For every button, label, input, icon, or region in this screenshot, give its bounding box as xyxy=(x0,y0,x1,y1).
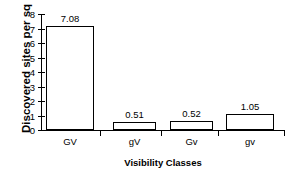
bar xyxy=(226,114,274,130)
y-axis-tick-label: 0 xyxy=(30,125,35,136)
bar-value-label: 0.52 xyxy=(182,108,201,119)
y-axis-tick xyxy=(38,101,45,102)
bar xyxy=(46,26,94,130)
bar-value-label: 1.05 xyxy=(241,101,260,112)
y-axis-tick xyxy=(38,14,45,15)
x-axis-tick xyxy=(218,130,219,136)
x-axis-category-label: GV xyxy=(63,136,77,147)
x-axis-category-label: Gv xyxy=(185,136,197,147)
y-axis-tick-label: 4 xyxy=(30,67,35,78)
x-axis-line xyxy=(41,130,285,131)
y-axis-tick xyxy=(38,72,45,73)
y-axis-tick-label: 5 xyxy=(30,52,35,63)
bar-value-label: 7.08 xyxy=(61,13,80,24)
x-axis-title: Visibility Classes xyxy=(41,157,285,168)
y-axis-tick-label: 8 xyxy=(30,9,35,20)
plot-area: 012345678 7.080.510.521.05 xyxy=(41,14,285,131)
y-axis-tick xyxy=(38,116,45,117)
y-axis-tick xyxy=(38,29,45,30)
y-axis-tick-label: 2 xyxy=(30,96,35,107)
y-axis-tick xyxy=(38,43,45,44)
bar-chart-figure: Discovered sites per sq km 012345678 7.0… xyxy=(0,0,291,181)
bar xyxy=(170,121,213,130)
y-axis-tick-label: 3 xyxy=(30,81,35,92)
y-axis-tick xyxy=(38,58,45,59)
x-axis-category-label: gV xyxy=(129,136,141,147)
y-axis-tick xyxy=(38,87,45,88)
bar-value-label: 0.51 xyxy=(125,109,144,120)
y-axis-tick-label: 6 xyxy=(30,38,35,49)
x-axis-tick xyxy=(284,130,285,136)
x-axis-tick xyxy=(161,130,162,136)
bar xyxy=(113,122,156,130)
y-axis-tick xyxy=(38,130,45,131)
x-axis-tick xyxy=(100,130,101,136)
y-axis-tick-label: 1 xyxy=(30,110,35,121)
y-axis-tick-label: 7 xyxy=(30,23,35,34)
x-axis-category-label: gv xyxy=(245,136,255,147)
